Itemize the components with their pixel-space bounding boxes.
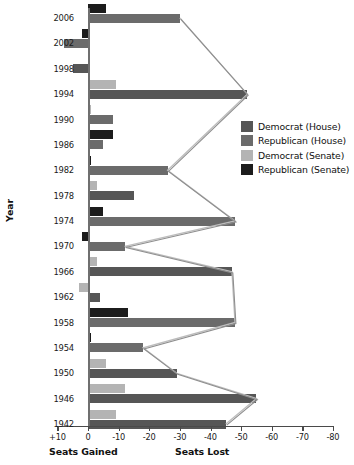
y-tick-label-2002: 2002 [28, 38, 74, 48]
legend-item-1: Republican (House) [241, 135, 349, 146]
y-tick-label-1990: 1990 [28, 115, 74, 125]
legend-item-0: Democrat (House) [241, 121, 349, 132]
y-tick-label-1994: 1994 [28, 89, 74, 99]
x-tick--50 [241, 426, 242, 431]
y-tick-label-1998: 1998 [28, 64, 74, 74]
x-axis-title-gained: Seats Gained [49, 446, 118, 457]
y-tick-label-1942: 1942 [28, 419, 74, 429]
legend-item-3: Republican (Senate) [241, 164, 349, 175]
x-tick-label--60: -60 [255, 432, 289, 442]
x-tick--20 [149, 426, 150, 431]
x-tick--70 [302, 426, 303, 431]
x-tick-label--20: -20 [132, 432, 166, 442]
legend-swatch-icon [241, 121, 253, 132]
x-tick-label-+10: +10 [40, 432, 74, 442]
x-tick-label--70: -70 [285, 432, 319, 442]
y-tick-label-2006: 2006 [28, 13, 74, 23]
x-tick-label--10: -10 [102, 432, 136, 442]
y-tick-label-1962: 1962 [28, 292, 74, 302]
x-axis-title-lost: Seats Lost [175, 446, 229, 457]
house-trend-shadow [126, 19, 258, 425]
x-tick--10 [119, 426, 120, 431]
legend-label: Democrat (House) [258, 121, 341, 132]
y-tick-label-1970: 1970 [28, 241, 74, 251]
house-trend [125, 18, 257, 424]
x-tick--60 [272, 426, 273, 431]
legend-label: Republican (Senate) [258, 164, 349, 175]
legend-swatch-icon [241, 135, 253, 146]
legend: Democrat (House)Republican (House)Democr… [241, 121, 349, 179]
y-tick-label-1946: 1946 [28, 394, 74, 404]
y-tick-label-1986: 1986 [28, 140, 74, 150]
legend-label: Democrat (Senate) [258, 150, 344, 161]
y-tick-label-1950: 1950 [28, 368, 74, 378]
zero-axis-line [88, 8, 90, 426]
legend-item-2: Democrat (Senate) [241, 150, 349, 161]
y-tick-label-1966: 1966 [28, 267, 74, 277]
legend-swatch-icon [241, 164, 253, 175]
legend-swatch-icon [241, 150, 253, 161]
y-tick-label-1978: 1978 [28, 191, 74, 201]
x-tick-label--30: -30 [163, 432, 197, 442]
x-tick-label--50: -50 [224, 432, 258, 442]
y-tick-label-1974: 1974 [28, 216, 74, 226]
midterm-seat-change-chart: Year +100-10-20-30-40-50-60-70-80 200620… [0, 0, 354, 465]
x-tick--40 [211, 426, 212, 431]
x-tick-label--40: -40 [194, 432, 228, 442]
legend-label: Republican (House) [258, 135, 346, 146]
x-tick-0 [88, 426, 89, 431]
x-axis-line [57, 426, 334, 427]
x-tick-label-0: 0 [71, 432, 105, 442]
y-tick-label-1958: 1958 [28, 318, 74, 328]
x-tick--80 [333, 426, 334, 431]
x-tick-label--80: -80 [316, 432, 350, 442]
y-tick-label-1982: 1982 [28, 165, 74, 175]
x-tick--30 [180, 426, 181, 431]
y-tick-label-1954: 1954 [28, 343, 74, 353]
